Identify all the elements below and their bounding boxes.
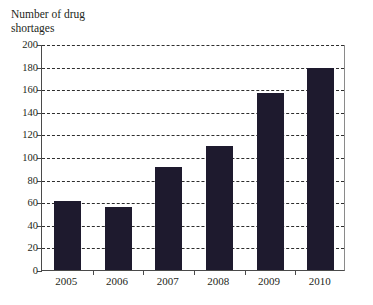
gridline (42, 248, 344, 249)
gridline (42, 45, 344, 46)
x-axis-tick-label: 2007 (145, 276, 191, 287)
x-axis-tick-label: 2008 (195, 276, 241, 287)
bar-chart: Number of drug shortages 020406080100120… (0, 0, 373, 305)
gridline (42, 158, 344, 159)
y-axis-tick-label: 200 (8, 40, 38, 51)
x-axis-tick-label: 2006 (94, 276, 140, 287)
y-axis-tick-label: 20 (8, 243, 38, 254)
x-axis-tick-label: 2009 (246, 276, 292, 287)
plot-area (41, 45, 345, 271)
bar (155, 167, 182, 270)
bar (105, 207, 132, 270)
x-axis-tick (143, 270, 144, 275)
y-axis-tick-label: 40 (8, 221, 38, 232)
x-axis-tick (295, 270, 296, 275)
x-axis-tick-label: 2010 (297, 276, 343, 287)
y-axis-tick-label: 120 (8, 130, 38, 141)
gridline (42, 90, 344, 91)
x-axis-tick (245, 270, 246, 275)
x-axis-tick (93, 270, 94, 275)
bar (206, 146, 233, 270)
y-axis-tick-label: 100 (8, 153, 38, 164)
bar (54, 201, 81, 270)
x-axis-tick-label: 2005 (43, 276, 89, 287)
gridline (42, 113, 344, 114)
x-axis-labels: 200520062007200820092010 (41, 276, 345, 292)
gridline (42, 68, 344, 69)
y-axis-tick-label: 0 (8, 266, 38, 277)
chart-title: Number of drug shortages (11, 8, 161, 35)
x-axis-tick (194, 270, 195, 275)
y-axis-tick-label: 80 (8, 176, 38, 187)
y-axis-tick-label: 160 (8, 85, 38, 96)
gridline (42, 226, 344, 227)
y-axis-tick-label: 60 (8, 198, 38, 209)
y-axis-tick-label: 140 (8, 108, 38, 119)
y-axis-labels: 020406080100120140160180200 (0, 40, 38, 280)
bar (257, 93, 284, 270)
gridline (42, 203, 344, 204)
gridline (42, 181, 344, 182)
bar (307, 68, 334, 270)
gridline (42, 135, 344, 136)
y-axis-tick-label: 180 (8, 63, 38, 74)
